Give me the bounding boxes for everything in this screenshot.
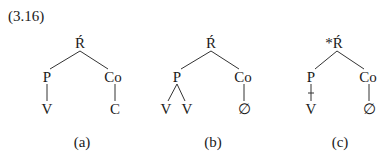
tree-edges [0, 0, 380, 155]
tree-c-v-node: V [306, 102, 317, 117]
tree-a-co-node: Co [104, 70, 122, 85]
tree-c-null-node: ∅ [363, 102, 376, 117]
edge-p-v2-b [177, 84, 185, 101]
tree-c-co-node: Co [359, 70, 377, 85]
edge-root-co-a [80, 51, 108, 69]
tree-b-null-node: ∅ [238, 102, 251, 117]
tree-a-v-node: V [42, 102, 53, 117]
tree-a-caption: (a) [74, 135, 91, 150]
tree-a-p-node: P [43, 70, 51, 85]
tree-c-caption: (c) [332, 135, 349, 150]
tree-b-root: Ŕ [206, 36, 216, 51]
tree-b-v2-node: V [182, 102, 193, 117]
edge-root-p-a [50, 51, 80, 69]
edge-root-co-b [211, 51, 239, 69]
tree-a-root: Ŕ [75, 36, 85, 51]
tree-b-caption: (b) [204, 135, 222, 150]
tree-c-root: *Ŕ [325, 36, 343, 51]
edge-root-p-b [181, 51, 211, 69]
tree-c-p-node: P [307, 70, 315, 85]
edge-root-co-c [337, 51, 364, 69]
tree-a-c-node: C [110, 102, 120, 117]
tree-b-v1-node: V [161, 102, 172, 117]
tree-b-co-node: Co [234, 70, 252, 85]
edge-root-p-c [315, 51, 337, 69]
tree-b-p-node: P [173, 70, 181, 85]
edge-p-v1-b [168, 84, 177, 101]
